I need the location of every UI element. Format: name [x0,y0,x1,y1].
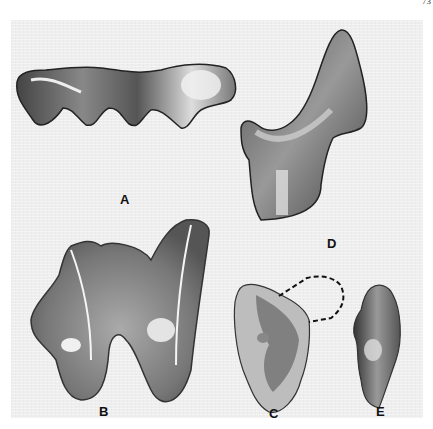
tooth-e-highlight [364,339,382,361]
tooth-d-shape [241,30,367,220]
figure-label-b: B [99,404,108,419]
figure-label-e: E [376,404,385,419]
page-number: 73 [422,0,431,6]
plate-drawings [11,20,423,418]
figure-d-drawing [241,30,367,220]
figure-a-drawing [17,64,236,128]
figure-label-c: C [269,406,278,421]
tooth-a-cusp-highlight [181,70,221,100]
figure-c-drawing [234,276,343,412]
tooth-b-cusp-1 [61,338,81,352]
figure-b-drawing [31,220,209,402]
figure-label-d: D [327,236,336,251]
tooth-b-cusp-2 [147,318,175,342]
figure-plate: A B C D E [11,20,423,418]
figure-label-a: A [120,192,129,207]
tooth-c-pit [257,333,269,343]
tooth-d-root-highlight [276,170,288,215]
tooth-b-shape [31,220,209,402]
figure-e-drawing [354,285,401,408]
